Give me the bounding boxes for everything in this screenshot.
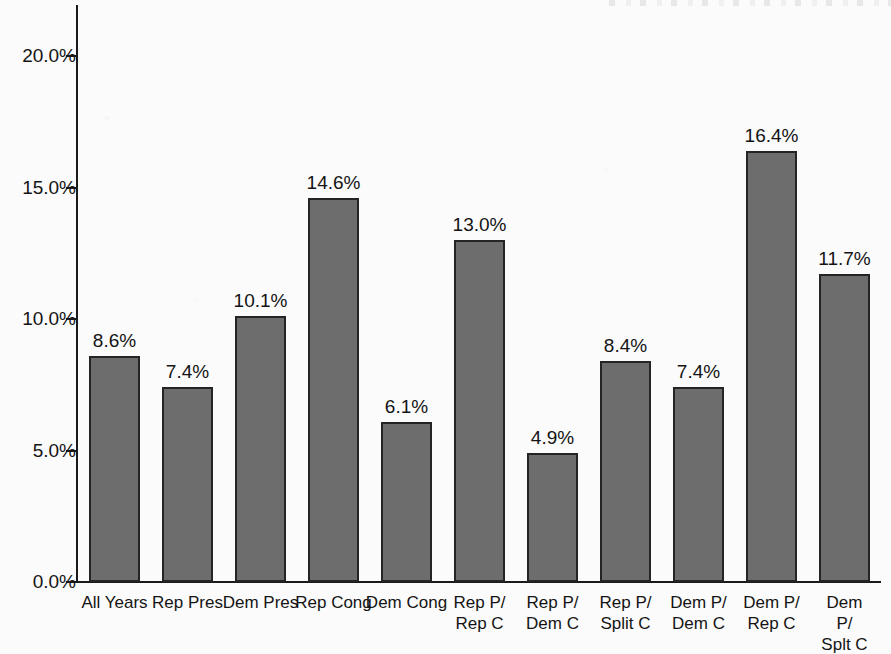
bar-value-label: 16.4% [745,125,799,147]
x-axis-category-label: Dem Pres [223,592,299,613]
bar [746,151,797,582]
x-axis-category-label: Dem P/ Dem C [670,592,727,634]
x-axis-category-label: Dem P/ Splt C [821,592,868,654]
x-axis-category-label: All Years [81,592,147,613]
bar-value-label: 11.7% [818,248,870,270]
x-axis-category-label: Rep P/ Dem C [526,592,579,634]
y-axis-tick-label: 0.0% [14,571,76,593]
bar-value-label: 7.4% [166,361,209,383]
bar-value-label: 8.4% [604,335,647,357]
y-axis-line [76,5,78,583]
bar [600,361,651,582]
bar [454,240,505,582]
y-axis-tick-label: 15.0% [14,177,76,199]
bar [381,422,432,582]
bar-value-label: 7.4% [677,361,720,383]
y-axis-tick-label: 5.0% [14,440,76,462]
bar-value-label: 4.9% [531,427,574,449]
x-axis-category-label: Rep P/ Split C [600,592,652,634]
bar-chart: 0.0%5.0%10.0%15.0%20.0% 8.6%7.4%10.1%14.… [0,0,891,654]
y-axis-tick-label: 20.0% [14,45,76,67]
bar [527,453,578,582]
bar [89,356,140,582]
x-axis-category-label: Dem Cong [366,592,447,613]
bar [308,198,359,582]
bar-value-label: 14.6% [307,172,361,194]
y-axis-tick-label: 10.0% [14,308,76,330]
bar-value-label: 8.6% [93,330,136,352]
bar-value-label: 6.1% [385,396,428,418]
bar [819,274,870,582]
bar-value-label: 13.0% [453,214,507,236]
x-axis-category-label: Rep Pres [152,592,223,613]
bar-value-label: 10.1% [234,290,288,312]
bar [162,387,213,582]
bar [673,387,724,582]
x-axis-category-label: Rep P/ Rep C [454,592,506,634]
x-axis-category-label: Dem P/ Rep C [743,592,800,634]
x-axis-category-label: Rep Cong [295,592,372,613]
bar [235,316,286,582]
scan-artifact-speckle [600,0,891,6]
